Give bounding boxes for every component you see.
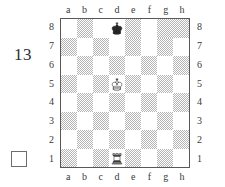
board-square-b8[interactable] [77, 19, 93, 38]
rank-label: 4 [193, 93, 206, 112]
file-label: a [60, 170, 76, 183]
board-square-b7[interactable] [77, 38, 93, 57]
chess-diagram: 13 a b c d e f g h a b c d e f g h 8 7 6… [0, 0, 225, 187]
file-label: e [125, 170, 141, 183]
board-square-a2[interactable] [61, 130, 77, 149]
board-square-a6[interactable] [61, 56, 77, 75]
board-square-e4[interactable] [125, 93, 141, 112]
file-label: c [93, 3, 109, 16]
board-square-a3[interactable] [61, 112, 77, 131]
board-square-g6[interactable] [157, 56, 173, 75]
board-square-d7[interactable] [109, 38, 125, 57]
board-square-d3[interactable] [109, 112, 125, 131]
board-square-d6[interactable] [109, 56, 125, 75]
file-label: b [76, 3, 92, 16]
board-square-d4[interactable] [109, 93, 125, 112]
board-square-g5[interactable] [157, 75, 173, 94]
puzzle-number: 13 [14, 46, 32, 63]
board-square-e5[interactable] [125, 75, 141, 94]
file-label: f [141, 3, 157, 16]
file-label: e [125, 3, 141, 16]
board-square-d1[interactable] [109, 149, 125, 168]
board-square-a5[interactable] [61, 75, 77, 94]
board-square-f8[interactable] [141, 19, 157, 38]
board-square-c8[interactable] [93, 19, 109, 38]
board-square-d5[interactable] [109, 75, 125, 94]
board-square-b5[interactable] [77, 75, 93, 94]
board-square-b2[interactable] [77, 130, 93, 149]
rank-label: 6 [45, 56, 58, 75]
board-square-d8[interactable] [109, 19, 125, 38]
board-square-h6[interactable] [173, 56, 189, 75]
board-square-e8[interactable] [125, 19, 141, 38]
board-square-b4[interactable] [77, 93, 93, 112]
file-labels-top: a b c d e f g h [60, 3, 190, 16]
board-square-b6[interactable] [77, 56, 93, 75]
rank-label: 1 [193, 149, 206, 168]
board-square-h5[interactable] [173, 75, 189, 94]
rank-label: 5 [45, 74, 58, 93]
board-square-f6[interactable] [141, 56, 157, 75]
board-square-e2[interactable] [125, 130, 141, 149]
board-square-a8[interactable] [61, 19, 77, 38]
rank-label: 6 [193, 56, 206, 75]
board-square-c5[interactable] [93, 75, 109, 94]
board-square-h7[interactable] [173, 38, 189, 57]
board-square-c2[interactable] [93, 130, 109, 149]
file-label: b [76, 170, 92, 183]
board-square-c4[interactable] [93, 93, 109, 112]
file-label: g [158, 170, 174, 183]
rank-labels-left: 8 7 6 5 4 3 2 1 [45, 18, 58, 168]
file-label: d [109, 170, 125, 183]
file-label: d [109, 3, 125, 16]
board-square-b3[interactable] [77, 112, 93, 131]
board-square-b1[interactable] [77, 149, 93, 168]
chess-board[interactable] [60, 18, 190, 168]
rank-label: 2 [45, 131, 58, 150]
board-square-e7[interactable] [125, 38, 141, 57]
board-square-e6[interactable] [125, 56, 141, 75]
board-square-g7[interactable] [157, 38, 173, 57]
board-square-d2[interactable] [109, 130, 125, 149]
board-square-f2[interactable] [141, 130, 157, 149]
board-square-h1[interactable] [173, 149, 189, 168]
board-square-g4[interactable] [157, 93, 173, 112]
rank-label: 4 [45, 93, 58, 112]
board-square-f5[interactable] [141, 75, 157, 94]
file-label: c [93, 170, 109, 183]
rank-labels-right: 8 7 6 5 4 3 2 1 [193, 18, 206, 168]
board-square-c6[interactable] [93, 56, 109, 75]
board-square-g1[interactable] [157, 149, 173, 168]
rank-label: 2 [193, 131, 206, 150]
board-square-a1[interactable] [61, 149, 77, 168]
board-square-h8[interactable] [173, 19, 189, 38]
side-to-move-indicator [11, 151, 27, 167]
white-rook-icon[interactable] [109, 149, 125, 168]
board-square-g3[interactable] [157, 112, 173, 131]
board-square-h2[interactable] [173, 130, 189, 149]
board-square-e1[interactable] [125, 149, 141, 168]
white-king-icon[interactable] [109, 75, 125, 94]
board-square-g2[interactable] [157, 130, 173, 149]
board-square-a4[interactable] [61, 93, 77, 112]
board-square-c3[interactable] [93, 112, 109, 131]
board-square-f7[interactable] [141, 38, 157, 57]
board-square-c1[interactable] [93, 149, 109, 168]
rank-label: 7 [193, 37, 206, 56]
board-square-a7[interactable] [61, 38, 77, 57]
file-label: f [141, 170, 157, 183]
file-label: a [60, 3, 76, 16]
board-square-f4[interactable] [141, 93, 157, 112]
rank-label: 1 [45, 149, 58, 168]
board-square-g8[interactable] [157, 19, 173, 38]
rank-label: 7 [45, 37, 58, 56]
board-square-h4[interactable] [173, 93, 189, 112]
board-square-e3[interactable] [125, 112, 141, 131]
board-square-f1[interactable] [141, 149, 157, 168]
chess-board-wrap [60, 18, 190, 168]
file-labels-bottom: a b c d e f g h [60, 170, 190, 183]
board-square-c7[interactable] [93, 38, 109, 57]
black-king-icon[interactable] [109, 19, 125, 38]
board-square-f3[interactable] [141, 112, 157, 131]
board-square-h3[interactable] [173, 112, 189, 131]
